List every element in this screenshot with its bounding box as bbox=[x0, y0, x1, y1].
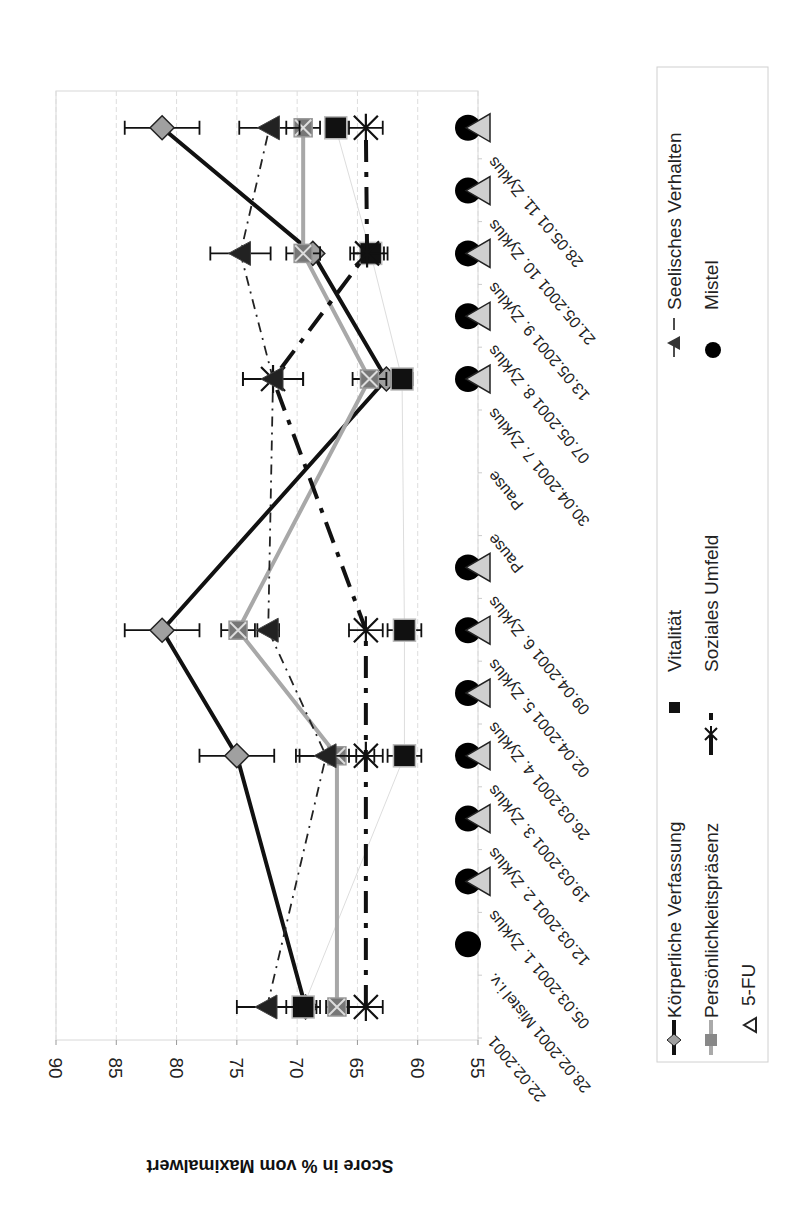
category-label: Pause bbox=[484, 468, 526, 514]
legend-circle-icon bbox=[705, 342, 721, 358]
category-label: 09.04.2001 6. Zyklus bbox=[484, 593, 593, 718]
square-marker bbox=[393, 745, 415, 767]
y-tick-label: 90 bbox=[45, 1057, 66, 1078]
category-label: 28.02.2001 Mistel i.v. bbox=[484, 970, 593, 1096]
y-axis: 9085807570656055 bbox=[45, 1040, 488, 1079]
legend: Körperliche VerfassungVitalitätSeelische… bbox=[657, 67, 768, 1062]
category-label: 13.05.2001 9. Zyklus bbox=[484, 279, 593, 404]
y-tick-label: 55 bbox=[467, 1057, 488, 1078]
square-marker bbox=[325, 117, 347, 139]
legend-square-icon bbox=[669, 702, 680, 713]
legend-label: Mistel bbox=[701, 260, 722, 310]
legend-label: Vitalität bbox=[664, 609, 685, 672]
legend-label: Soziales Umfeld bbox=[701, 535, 722, 672]
plot-area bbox=[56, 91, 478, 1040]
category-label: 12.03.2001 2. Zyklus bbox=[484, 845, 593, 970]
category-label: 02.04.2001 5. Zyklus bbox=[484, 656, 593, 781]
mistel-marker bbox=[455, 931, 481, 957]
category-label: 26.03.2001 4. Zyklus bbox=[484, 719, 593, 844]
category-label: 07.05.2001 8. Zyklus bbox=[484, 342, 593, 467]
y-tick-label: 75 bbox=[226, 1057, 247, 1078]
category-label: 21.05.2001 10. Zyklus bbox=[484, 217, 598, 349]
plot-frame bbox=[56, 91, 478, 1040]
category-label: 05.03.2001 1. Zyklus bbox=[484, 907, 593, 1032]
category-label: 28.05.01 11. Zyklus bbox=[484, 154, 586, 271]
square-marker bbox=[391, 368, 413, 390]
y-tick-label: 80 bbox=[166, 1057, 187, 1078]
legend-label: Körperliche Verfassung bbox=[664, 822, 685, 1018]
square-marker bbox=[393, 619, 415, 641]
legend-xsquare-icon bbox=[705, 1034, 717, 1046]
legend-label: Persönlichkeitspräsenz bbox=[701, 823, 722, 1018]
x-axis: 22.02.200128.02.2001 Mistel i.v.05.03.20… bbox=[478, 154, 598, 1105]
y-tick-label: 85 bbox=[105, 1057, 126, 1078]
y-axis-title: Score in % vom Maximalwert bbox=[146, 1156, 393, 1176]
chart: 9085807570656055 22.02.200128.02.2001 Mi… bbox=[0, 0, 810, 1216]
category-label: 30.04.2001 7. Zyklus bbox=[484, 405, 593, 530]
legend-label: Seelisches Verhalten bbox=[664, 133, 685, 310]
y-tick-label: 65 bbox=[346, 1057, 367, 1078]
category-label: 19.03.2001 3. Zyklus bbox=[484, 782, 593, 907]
y-tick-label: 60 bbox=[407, 1057, 428, 1078]
y-tick-label: 70 bbox=[286, 1057, 307, 1078]
legend-label: 5-FU bbox=[738, 964, 759, 1006]
